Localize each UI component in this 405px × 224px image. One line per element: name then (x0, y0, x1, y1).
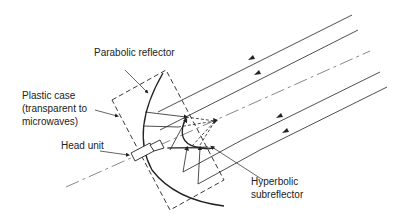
optical-axis (66, 51, 370, 187)
label-parabolic-reflector: Parabolic reflector (94, 47, 175, 59)
label-hyperbolic-2: subreflector (251, 189, 303, 201)
label-hyperbolic-1: Hyperbolic (251, 176, 298, 188)
label-plastic-case-1: Plastic case (22, 90, 75, 102)
label-head-unit: Head unit (61, 140, 104, 152)
plastic-case (112, 70, 224, 210)
label-plastic-case-2: (transparent to (22, 103, 87, 115)
incoming-rays (158, 15, 387, 184)
head-unit (131, 140, 164, 161)
label-plastic-case-3: microwaves) (22, 116, 78, 128)
